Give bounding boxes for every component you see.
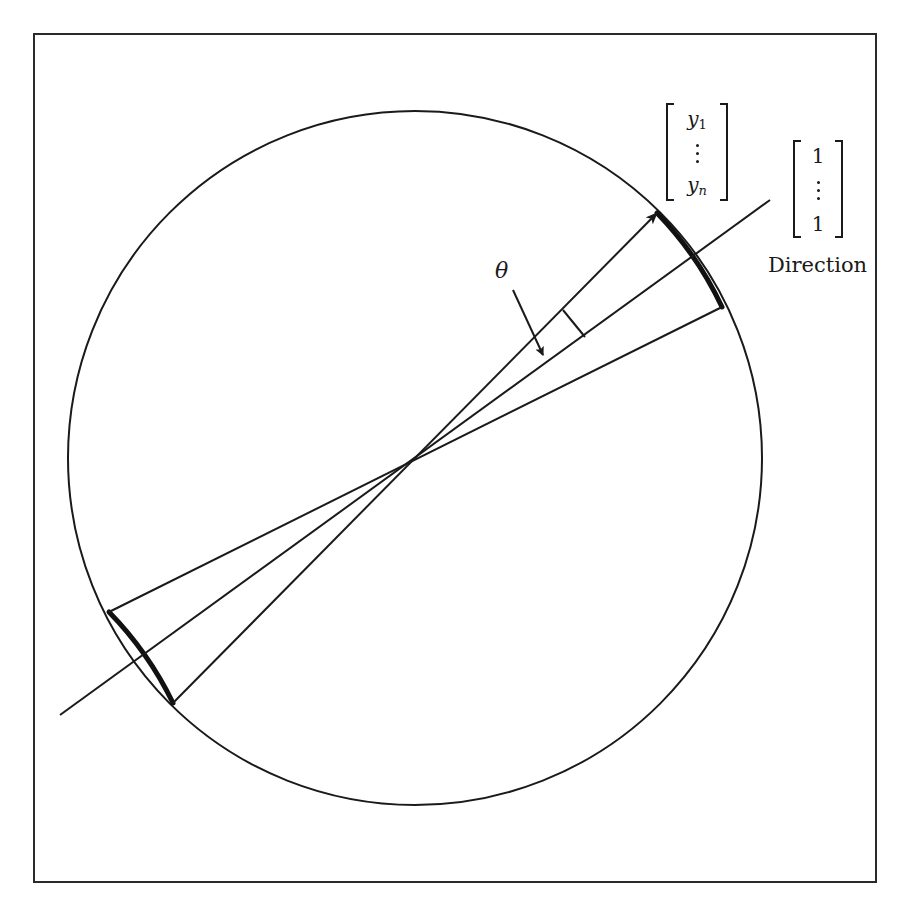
theta-pointer-arrow — [513, 290, 543, 355]
vertical-ellipsis-icon — [817, 181, 820, 200]
ones-vector-first-entry: 1 — [812, 146, 825, 166]
vector-y-last-subscript: n — [698, 183, 706, 198]
observation-vector-y: y1 yn — [665, 103, 729, 201]
left-bracket-icon — [792, 140, 802, 238]
theta-label: θ — [495, 260, 508, 282]
right-bracket-icon — [719, 103, 729, 201]
cone-boundary-line — [109, 307, 722, 612]
right-bracket-icon — [834, 140, 844, 238]
left-bracket-icon — [665, 103, 675, 201]
ones-vector: 1 1 — [792, 140, 844, 238]
geometry-diagram — [0, 0, 907, 909]
direction-label: Direction — [768, 255, 867, 276]
ones-vector-last-entry: 1 — [812, 214, 825, 234]
lower-cap-arc — [109, 612, 173, 703]
vertical-ellipsis-icon — [696, 144, 699, 163]
vector-y-first-subscript: 1 — [699, 117, 707, 132]
vector-y-first-entry: y1 — [687, 109, 707, 131]
vector-y-first-symbol: y — [687, 107, 698, 131]
direction-line — [60, 200, 770, 715]
vector-y-last-entry: yn — [687, 175, 707, 197]
vector-y-last-symbol: y — [687, 173, 698, 197]
right-angle-mark — [563, 310, 585, 337]
upper-cap-arc — [657, 213, 722, 307]
